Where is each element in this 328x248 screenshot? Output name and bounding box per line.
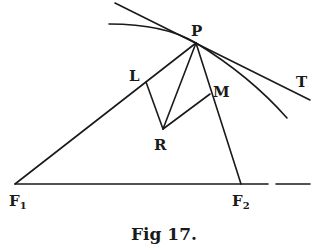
segment-P-F2 (196, 43, 241, 184)
label-F2: F2 (232, 192, 250, 211)
label-R: R (154, 136, 167, 154)
label-M: M (213, 83, 230, 101)
label-F1: F1 (9, 192, 27, 211)
segment-L-R (146, 82, 163, 129)
geometry-figure: P T L M R F1 F2 Fig 17. (0, 0, 328, 248)
label-P: P (191, 22, 202, 40)
label-L: L (129, 67, 140, 85)
figure-caption: Fig 17. (131, 224, 197, 244)
label-T: T (296, 73, 308, 91)
